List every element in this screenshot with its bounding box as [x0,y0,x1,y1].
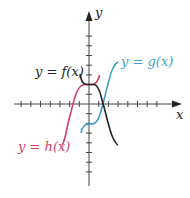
curve-h [62,75,100,145]
graph-canvas: y x y = f(x) y = g(x) y = h(x) [0,0,190,198]
curve-f [80,74,118,145]
y-axis-arrow-icon [86,11,93,21]
label-h-name: h [45,139,53,154]
x-axis [14,101,182,108]
label-h-prefix: y = [17,139,45,154]
label-h-arg: (x) [53,139,70,154]
y-axis [86,11,93,186]
label-g-arg: (x) [156,54,173,69]
label-h: y = h(x) [17,139,70,154]
curve-g [81,62,118,133]
label-g: y = g(x) [120,54,173,69]
y-axis-label: y [94,5,103,20]
label-f-arg: (x) [66,64,83,79]
label-f-prefix: y = [34,64,62,79]
x-axis-label: x [176,107,184,122]
label-g-prefix: y = [120,54,148,69]
label-f: y = f(x) [34,64,84,79]
label-g-name: g [148,54,156,69]
